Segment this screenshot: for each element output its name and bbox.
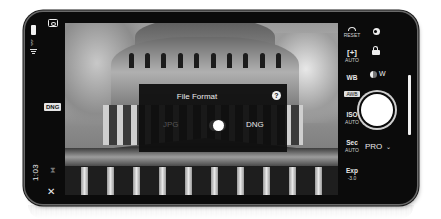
jpg-option-label[interactable]: JPG: [163, 120, 179, 129]
iso-button[interactable]: ISO AUTO: [341, 111, 363, 126]
white-balance-button[interactable]: WB AWB: [341, 74, 363, 100]
capitol-columns: [65, 166, 338, 195]
phone-reflection: [28, 205, 414, 219]
phone-frame: ᛒ 1:03 DNG ⧗ ✕ File Format: [25, 12, 417, 204]
mode-label: PRO: [365, 142, 382, 151]
shutter-speed-button[interactable]: Sec AUTO: [341, 139, 363, 154]
lock-icon[interactable]: [372, 46, 380, 55]
bluetooth-icon: ᛒ: [30, 39, 34, 46]
wifi-icon: [30, 49, 37, 55]
stage: ᛒ 1:03 DNG ⧗ ✕ File Format: [0, 0, 441, 219]
camera-viewfinder[interactable]: File Format ? JPG DNG: [65, 23, 338, 195]
exposure-lock-label: AUTO: [341, 57, 363, 64]
dng-option-label[interactable]: DNG: [246, 120, 264, 129]
dialog-title: File Format: [139, 92, 255, 101]
iso-value: AUTO: [341, 119, 363, 126]
close-button[interactable]: ✕: [47, 187, 55, 197]
wb-label: WB: [341, 74, 363, 82]
file-format-toggle[interactable]: [209, 120, 226, 131]
chevron-down-icon: ⌄: [386, 144, 391, 150]
camera-switch-icon[interactable]: [48, 19, 58, 27]
lens-flip-icon[interactable]: [373, 28, 380, 35]
reset-label: RESET: [341, 32, 363, 39]
exposure-label: Exp: [341, 167, 363, 175]
lens-wide-button[interactable]: W: [370, 70, 386, 78]
wb-value-badge: AWB: [344, 91, 359, 97]
lens-label: W: [379, 70, 386, 77]
toggle-knob: [213, 120, 224, 131]
exposure-button[interactable]: Exp -3.0: [341, 167, 363, 182]
help-icon[interactable]: ?: [272, 91, 281, 100]
iso-label: ISO: [341, 111, 363, 119]
file-format-badge[interactable]: DNG: [44, 103, 61, 111]
shutter-button[interactable]: [361, 94, 393, 126]
shutter-speed-value: AUTO: [341, 147, 363, 154]
battery-icon: [31, 25, 36, 35]
exposure-lock-button[interactable]: [+] AUTO: [341, 48, 363, 64]
exposure-bracket-icon: [+]: [341, 48, 363, 57]
camera-mode-select[interactable]: PRO⌄: [365, 142, 391, 151]
timer-icon[interactable]: ⧗: [50, 166, 56, 176]
status-time: 1:03: [31, 157, 40, 189]
dome-windows: [123, 53, 287, 69]
file-format-dialog: File Format ? JPG DNG: [139, 84, 287, 152]
zoom-slider[interactable]: [408, 75, 411, 135]
shutter-speed-label: Sec: [341, 139, 363, 147]
exposure-value: -3.0: [341, 175, 363, 182]
reset-button[interactable]: RESET: [341, 27, 363, 39]
status-bar: ᛒ 1:03: [29, 18, 41, 198]
reset-icon: [348, 27, 356, 31]
lens-icon: [370, 71, 377, 78]
